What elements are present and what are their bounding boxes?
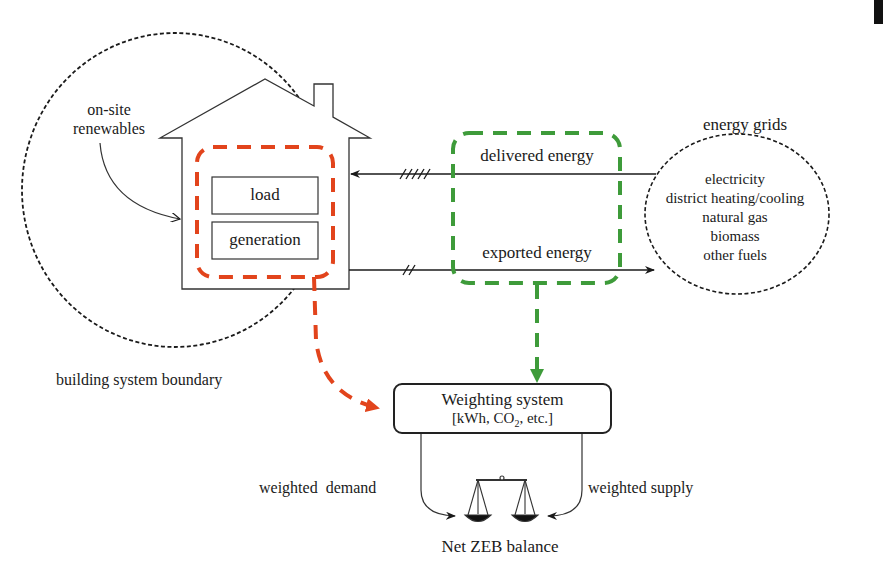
units-suffix: , etc.]	[519, 410, 553, 426]
energy-grids-title: energy grids	[690, 116, 800, 134]
renewables-label-line1: on-site	[64, 100, 154, 119]
load-label: load	[212, 185, 318, 205]
renewables-arrow	[100, 143, 180, 219]
grid-item-other-fuels: other fuels	[655, 246, 815, 265]
weighting-system-units: [kWh, CO2, etc.]	[395, 409, 610, 433]
weighting-system-box: Weighting system [kWh, CO2, etc.]	[393, 383, 612, 434]
building-boundary-label: building system boundary	[56, 371, 222, 389]
net-zeb-balance-label: Net ZEB balance	[430, 538, 570, 556]
diagram-canvas	[0, 0, 883, 569]
weighted-demand-arrow	[421, 434, 455, 516]
renewables-label-line2: renewables	[64, 119, 154, 138]
page-edge-mark	[874, 0, 883, 24]
energy-grids-list: electricity district heating/cooling nat…	[655, 170, 815, 265]
grid-item-biomass: biomass	[655, 227, 815, 246]
renewables-label: on-site renewables	[64, 100, 154, 138]
delivered-energy-label: delivered energy	[462, 147, 612, 165]
red-dashed-arrow	[314, 277, 378, 408]
weighted-supply-label: weighted supply	[588, 479, 693, 497]
weighted-demand-label: weighted demand	[259, 479, 376, 497]
grid-item-district-heating: district heating/cooling	[637, 189, 833, 208]
generation-label: generation	[212, 230, 318, 250]
weighted-supply-arrow	[548, 434, 582, 516]
weighting-system-title: Weighting system	[395, 390, 610, 409]
units-prefix: [kWh, CO	[452, 410, 515, 426]
balance-scale-icon	[465, 476, 538, 522]
grid-item-electricity: electricity	[655, 170, 815, 189]
grid-item-natural-gas: natural gas	[655, 208, 815, 227]
exported-energy-label: exported energy	[462, 244, 612, 262]
